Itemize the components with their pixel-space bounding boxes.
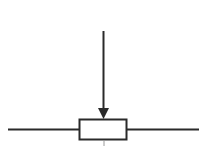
potentiometer-diagram — [0, 0, 214, 151]
wiper-arrow-head-icon — [98, 108, 109, 119]
resistor-body — [80, 120, 127, 140]
